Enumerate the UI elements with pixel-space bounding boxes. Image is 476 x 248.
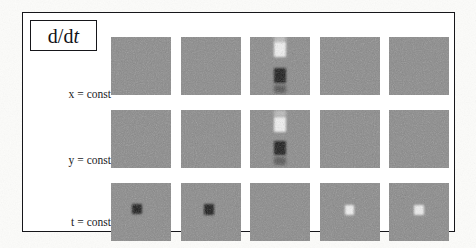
operator-label-prefix: d/d (48, 25, 74, 47)
panel-r1-c3-dark-lobe-2 (274, 68, 286, 83)
operator-label-variable: t (74, 25, 80, 47)
panel-noise-r3-c2 (181, 183, 241, 241)
row-label-t-value: const (87, 216, 111, 228)
panel-noise-r3-c1 (111, 183, 171, 241)
panel-noise-r1-c4 (320, 37, 380, 95)
panel-noise-r1-c5 (389, 37, 449, 95)
panel-noise-r1-c1 (111, 37, 171, 95)
panel-noise-r1-c3 (250, 37, 310, 95)
panel-r3-c4-bright-lobe-1 (345, 205, 355, 215)
panel-noise-r2-c5 (389, 110, 449, 168)
operator-label-box: d/dt (30, 20, 97, 51)
panel-r1-c3-bright-tail-3 (274, 37, 285, 43)
row-label-y: y=const (31, 154, 111, 166)
row-label-y-relation: = (74, 154, 87, 166)
panel-noise-r2-c2 (181, 110, 241, 168)
panel-r2-c5 (389, 110, 449, 168)
panel-r2-c3 (250, 110, 310, 168)
panel-r2-c3-dark-tail-4 (274, 157, 285, 165)
panel-r2-c4 (320, 110, 380, 168)
panel-r3-c1 (111, 183, 171, 241)
panel-r1-c4 (320, 37, 380, 95)
panel-r1-c5 (389, 37, 449, 95)
panel-noise-r2-c4 (320, 110, 380, 168)
panel-r1-c3 (250, 37, 310, 95)
row-label-x: x=const (31, 88, 111, 100)
panel-r3-c2-dark-lobe-1 (204, 204, 214, 214)
panel-noise-r3-c4 (320, 183, 380, 241)
panel-r2-c3-dark-lobe-2 (274, 141, 286, 155)
panel-r2-c3-bright-lobe-1 (274, 117, 286, 132)
panel-noise-r2-c3 (250, 110, 310, 168)
row-label-y-value: const (87, 154, 111, 166)
panel-r1-c2 (181, 37, 241, 95)
panel-noise-r3-c5 (389, 183, 449, 241)
panel-r3-c4 (320, 183, 380, 241)
row-label-x-relation: = (74, 88, 87, 100)
panel-r1-c1 (111, 37, 171, 95)
figure-root: d/dt x=const y=const t=const (0, 0, 476, 248)
operator-label-text: d/dt (48, 26, 80, 46)
figure-frame: d/dt x=const y=const t=const (22, 12, 455, 232)
row-label-t: t=const (31, 216, 111, 228)
row-label-x-value: const (87, 88, 111, 100)
panel-r3-c5-bright-lobe-1 (414, 205, 424, 215)
panel-r1-c3-dark-tail-4 (274, 85, 285, 93)
panel-r1-c3-bright-lobe-1 (274, 42, 286, 57)
panel-r3-c5 (389, 183, 449, 241)
panel-r2-c1 (111, 110, 171, 168)
row-label-t-relation: = (74, 216, 87, 228)
panel-noise-r1-c2 (181, 37, 241, 95)
panel-r3-c3 (250, 183, 310, 241)
panel-grid (111, 25, 449, 229)
panel-noise-r2-c1 (111, 110, 171, 168)
panel-noise-r3-c3 (250, 183, 310, 241)
panel-r2-c2 (181, 110, 241, 168)
panel-r2-c3-bright-tail-3 (274, 110, 285, 117)
panel-r3-c2 (181, 183, 241, 241)
panel-r3-c1-dark-lobe-1 (132, 204, 142, 214)
